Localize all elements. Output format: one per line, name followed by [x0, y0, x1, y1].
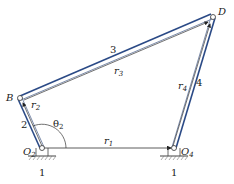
label-r1: r1: [104, 135, 113, 148]
four-bar-linkage-diagram: B D O2 O4 2 3 4 r1 r2 r3 r4 θ2 1 1: [0, 0, 234, 184]
label-d: D: [217, 6, 226, 17]
label-link-3: 3: [110, 44, 116, 55]
label-ground-1-right: 1: [171, 167, 177, 178]
label-link-2: 2: [21, 119, 27, 130]
pin-joint-o2: [40, 146, 45, 151]
label-link-4: 4: [196, 77, 202, 88]
pin-joint-o4: [172, 146, 177, 151]
label-r3: r3: [114, 65, 124, 78]
pin-joint-b: [18, 96, 23, 101]
label-ground-1-left: 1: [39, 167, 45, 178]
pin-joint-d: [211, 15, 216, 20]
label-b: B: [5, 92, 13, 103]
label-r4: r4: [178, 80, 187, 93]
label-o2: O2: [23, 146, 36, 159]
label-r2: r2: [31, 99, 41, 112]
label-theta2: θ2: [53, 118, 64, 131]
